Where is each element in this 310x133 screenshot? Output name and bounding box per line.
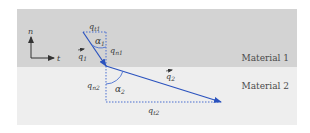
refraction-diagram: Material 1 Material 2 n t qt1 α1 qn1 q1 … [0, 0, 310, 133]
n-axis-label: n [28, 27, 33, 36]
material-2-region [17, 67, 297, 125]
material-2-label: Material 2 [241, 81, 289, 91]
material-1-label: Material 1 [241, 53, 289, 63]
